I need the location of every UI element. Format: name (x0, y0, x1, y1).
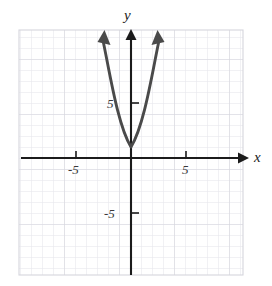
y-tick-label-pos5: 5 (107, 97, 114, 110)
graph-figure (0, 0, 272, 286)
y-axis-label: y (124, 8, 131, 23)
x-tick-label-neg5: -5 (68, 163, 79, 176)
x-axis-label: x (254, 150, 261, 165)
y-tick-label-neg5: -5 (104, 207, 115, 220)
x-tick-label-pos5: 5 (182, 163, 189, 176)
